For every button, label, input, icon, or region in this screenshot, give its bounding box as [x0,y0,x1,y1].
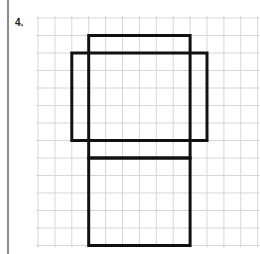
grid-paper-figure [0,0,260,254]
grid-lines [36,16,260,248]
